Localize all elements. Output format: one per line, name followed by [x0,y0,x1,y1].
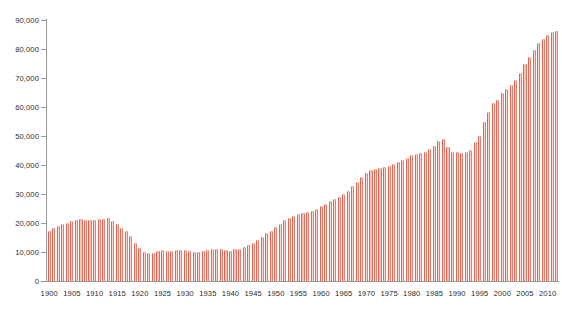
bar [152,253,155,281]
bar-cap [460,153,463,154]
bar [270,231,273,281]
bar [351,186,354,281]
bar [315,209,318,281]
bar-cap [243,247,246,248]
bar-cap [229,251,232,252]
x-axis-label: 1905 [63,289,80,298]
bar-cap [193,252,196,253]
bar [329,201,332,281]
bar [61,224,64,281]
bar [147,253,150,281]
bar [478,136,481,281]
bar-cap [274,227,277,228]
bar [369,170,372,281]
figure-caption [0,318,562,327]
y-axis-label: 0 [35,277,39,286]
bar [261,237,264,281]
bar [292,216,295,281]
bar-cap [392,164,395,165]
bar-cap [188,251,191,252]
bar [206,250,209,281]
bar [252,243,255,281]
bar [107,218,110,281]
bar [496,100,499,281]
bar [519,73,522,281]
bar-cap [474,142,477,143]
bar-cap [52,228,55,229]
bar [193,252,196,281]
bar [460,153,463,281]
bar-cap [465,152,468,153]
bar-cap [265,233,268,234]
bar-cap [156,251,159,252]
bar [98,219,101,281]
y-axis-label: 60,000 [15,103,39,112]
bar [202,251,205,281]
bar [338,197,341,281]
bar [48,231,51,281]
bar [483,122,486,281]
bar [510,85,513,281]
bar [134,243,137,281]
bar [88,220,91,281]
bar [116,224,119,281]
bar [175,250,178,281]
y-axis-label: 40,000 [15,161,39,170]
bar-cap [279,224,282,225]
bar-cap [415,154,418,155]
x-axis-label: 1980 [403,289,420,298]
bar-cap [555,31,558,32]
bar [392,164,395,281]
bar-cap [70,221,73,222]
bar-cap [283,220,286,221]
bar [469,150,472,281]
bar [533,50,536,281]
bar [52,228,55,281]
bar-cap [469,150,472,151]
bar [66,223,69,281]
bar-cap [247,245,250,246]
bar-cap [514,80,517,81]
bar [374,169,377,281]
bar-cap [252,243,255,244]
bar-cap [84,220,87,221]
bar-cap [292,216,295,217]
bar-cap [138,248,141,249]
bar-cap [360,177,363,178]
bar [428,149,431,281]
bar-cap [311,211,314,212]
bar-cap [397,162,400,163]
bar-cap [134,243,137,244]
bar [111,221,114,281]
x-axis-label: 1965 [335,289,352,298]
bar [184,250,187,281]
bar-cap [551,32,554,33]
y-axis-tick [41,281,46,282]
bar [555,31,558,281]
y-axis-label: 10,000 [15,248,39,257]
bar [138,248,141,281]
bar [492,103,495,281]
bar-cap [446,147,449,148]
x-axis-label: 1920 [131,289,148,298]
bar-cap [483,122,486,123]
bar [224,250,227,281]
bar [365,173,368,281]
bar-cap [320,206,323,207]
bar [220,249,223,281]
bar [238,249,241,281]
bar [283,220,286,281]
bar-cap [93,220,96,221]
bar-cap [224,250,227,251]
bar [79,219,82,281]
bar [542,39,545,281]
bar [166,251,169,281]
bar [93,220,96,281]
x-axis-label: 1955 [290,289,307,298]
bar-cap [102,219,105,220]
x-axis-label: 1910 [86,289,103,298]
bar [129,236,132,281]
x-axis-label: 2000 [494,289,511,298]
bar-cap [75,220,78,221]
bar-cap [147,253,150,254]
